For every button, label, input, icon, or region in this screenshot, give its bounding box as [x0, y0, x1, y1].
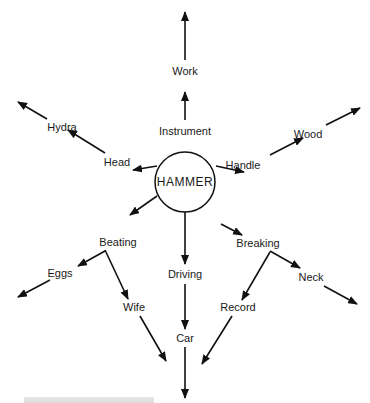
- node-breaking: Breaking: [236, 237, 279, 249]
- node-car: Car: [176, 332, 194, 344]
- arrow: [270, 138, 303, 155]
- arrow: [130, 196, 157, 215]
- node-wood: Wood: [294, 128, 323, 140]
- arrow: [221, 224, 242, 235]
- node-instrument: Instrument: [159, 125, 211, 137]
- arrow: [18, 280, 50, 297]
- arrow: [140, 316, 166, 361]
- node-beating: Beating: [99, 236, 136, 248]
- node-eggs: Eggs: [47, 267, 72, 279]
- node-head: Head: [104, 156, 130, 168]
- arrow: [270, 251, 300, 268]
- node-work: Work: [172, 65, 197, 77]
- arrow: [68, 130, 105, 153]
- arrow: [326, 108, 360, 125]
- arrow: [324, 286, 357, 304]
- node-neck: Neck: [298, 271, 323, 283]
- hammer-association-diagram: WorkInstrumentHydraHeadHandleWoodBeating…: [0, 0, 370, 403]
- node-wife: Wife: [123, 301, 145, 313]
- node-hydra: Hydra: [47, 121, 76, 133]
- figure-caption-cutoff: [24, 397, 154, 403]
- arrow: [242, 252, 270, 300]
- node-handle: Handle: [226, 159, 261, 171]
- arrow: [202, 316, 232, 364]
- node-driving: Driving: [168, 268, 202, 280]
- node-record: Record: [220, 301, 255, 313]
- arrow: [18, 102, 47, 119]
- arrow: [105, 250, 128, 299]
- arrow: [133, 166, 157, 170]
- center-label: HAMMER: [157, 175, 213, 189]
- arrow: [78, 251, 105, 266]
